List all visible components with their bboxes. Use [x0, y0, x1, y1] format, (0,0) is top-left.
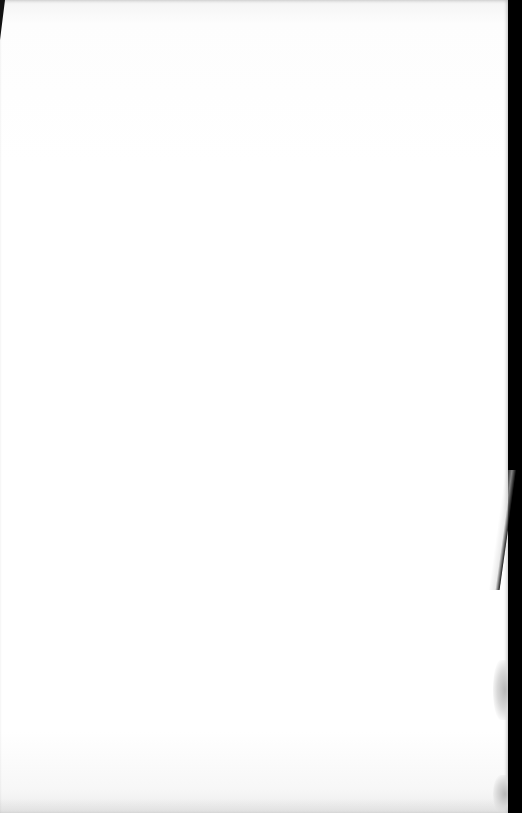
page-content [30, 30, 464, 783]
paper-edge-texture-upper [493, 660, 508, 720]
top-left-corner-shadow [0, 0, 5, 40]
bottom-edge-shading [0, 799, 508, 813]
blank-paper-page [0, 0, 508, 813]
paper-edge-texture-lower [493, 775, 508, 813]
photo-scene [0, 0, 522, 813]
